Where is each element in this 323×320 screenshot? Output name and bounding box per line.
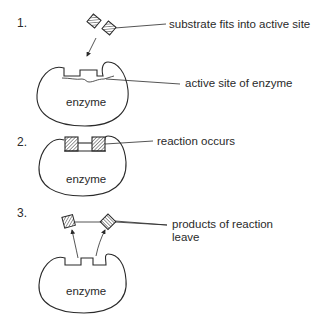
step-2: 2. reaction occurs enzyme — [17, 135, 235, 196]
label-active-site: active site of enzyme — [185, 77, 292, 89]
label-reaction: reaction occurs — [157, 135, 235, 147]
label-products: products of reaction — [172, 218, 273, 230]
substrate-icon — [87, 14, 116, 35]
step-number: 2. — [17, 135, 27, 149]
step-number: 3. — [17, 206, 27, 220]
enzyme-label: enzyme — [66, 285, 106, 297]
arrow-icon — [72, 230, 78, 258]
enzyme-diagram: 1. substrate fits into active site activ… — [0, 0, 323, 320]
enzyme-label: enzyme — [66, 173, 106, 185]
step-1: 1. substrate fits into active site activ… — [17, 14, 310, 126]
product-icon — [100, 214, 116, 230]
substrate-icon — [92, 137, 105, 151]
step-number: 1. — [17, 16, 27, 30]
product-icon — [62, 215, 75, 228]
label-substrate: substrate fits into active site — [169, 18, 310, 30]
enzyme-shape — [37, 62, 128, 126]
leader-line — [105, 141, 153, 144]
leader-line — [115, 24, 166, 28]
arrow-icon — [87, 38, 96, 56]
substrate-icon — [65, 137, 78, 151]
enzyme-shape — [39, 136, 126, 196]
leader-line — [115, 222, 167, 225]
enzyme-shape — [39, 254, 126, 313]
enzyme-label: enzyme — [66, 96, 106, 108]
step-3: 3. products of reaction leave enzyme — [17, 206, 273, 313]
arrow-icon — [96, 230, 105, 256]
leader-line — [106, 79, 180, 84]
label-products-leave: leave — [172, 231, 200, 243]
